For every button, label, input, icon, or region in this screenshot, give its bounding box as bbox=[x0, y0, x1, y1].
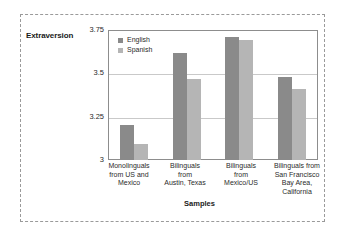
y-tick-label-3.25: 3.25 bbox=[74, 112, 104, 121]
x-axis-title-text: Samples bbox=[184, 199, 215, 208]
x-category-label-1-line-0: Bilinguals bbox=[158, 162, 212, 171]
x-category-label-0-line-2: Mexico bbox=[102, 179, 156, 188]
x-category-label-1-line-2: Austin, Texas bbox=[158, 179, 212, 188]
x-category-label-2-line-1: from bbox=[214, 171, 268, 180]
bar-spanish-0[interactable] bbox=[134, 144, 148, 160]
bar-spanish-2[interactable] bbox=[239, 40, 253, 160]
x-category-label-0-line-0: Monolinguals bbox=[102, 162, 156, 171]
extraversion-bar-chart-figure: Extraversion 33.253.53.75 EnglishSpanish… bbox=[0, 0, 345, 238]
x-category-label-0-line-1: from US and bbox=[102, 171, 156, 180]
x-axis-title: Samples bbox=[0, 199, 345, 208]
x-category-label-1: BilingualsfromAustin, Texas bbox=[157, 162, 213, 196]
x-category-label-3-line-3: California bbox=[270, 188, 324, 197]
x-category-label-2: BilingualsfromMexico/US bbox=[213, 162, 269, 196]
x-category-label-0: Monolingualsfrom US andMexico bbox=[101, 162, 157, 196]
y-tick-label-3.5: 3.5 bbox=[74, 68, 104, 77]
y-axis-title: Extraversion bbox=[26, 31, 73, 40]
x-category-label-2-line-0: Bilinguals bbox=[214, 162, 268, 171]
y-tick-label-3.75: 3.75 bbox=[74, 25, 104, 34]
bar-spanish-1[interactable] bbox=[187, 79, 201, 160]
x-category-label-3-line-0: Bilinguals from bbox=[270, 162, 324, 171]
x-category-label-2-line-2: Mexico/US bbox=[214, 179, 268, 188]
x-category-label-1-line-1: from bbox=[158, 171, 212, 180]
x-category-label-3-line-1: San Francisco bbox=[270, 171, 324, 180]
x-category-label-3: Bilinguals fromSan FranciscoBay Area,Cal… bbox=[269, 162, 325, 196]
bar-english-3[interactable] bbox=[278, 77, 292, 160]
bars-layer bbox=[108, 30, 318, 160]
bar-english-2[interactable] bbox=[225, 37, 239, 160]
bar-spanish-3[interactable] bbox=[292, 89, 306, 160]
bar-english-1[interactable] bbox=[173, 53, 187, 160]
x-axis-category-labels: Monolingualsfrom US andMexicoBilingualsf… bbox=[101, 162, 325, 196]
y-tick-label-3: 3 bbox=[74, 155, 104, 164]
x-category-label-3-line-2: Bay Area, bbox=[270, 179, 324, 188]
bar-english-0[interactable] bbox=[120, 125, 134, 160]
